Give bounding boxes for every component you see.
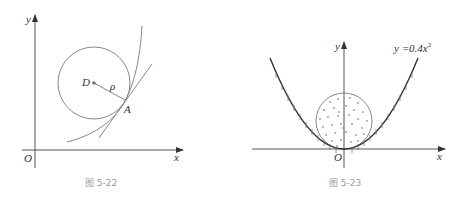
origin-label: O — [24, 152, 32, 164]
caption-5-22: 图 5-22 — [85, 178, 117, 188]
y-axis-label: y — [25, 13, 31, 25]
y-axis-label: y — [334, 40, 340, 52]
figure-5-22: y O x D ρ A 图 5-22 — [22, 13, 183, 188]
center-point — [92, 81, 96, 85]
x-axis-label: x — [436, 150, 442, 162]
origin-label: O — [334, 151, 342, 163]
radius-label: ρ — [109, 80, 115, 92]
equation-label: y =0.4x2 — [393, 41, 432, 54]
point-label: A — [123, 103, 131, 115]
caption-5-23: 图 5-23 — [329, 178, 361, 188]
x-axis-label: x — [173, 151, 179, 163]
curve — [67, 26, 142, 142]
diagram-canvas: y O x D ρ A 图 5-22 y O x — [0, 0, 460, 203]
figure-5-23: y O x — [252, 40, 445, 188]
center-label: D — [81, 76, 90, 88]
tangent-line — [99, 64, 152, 138]
